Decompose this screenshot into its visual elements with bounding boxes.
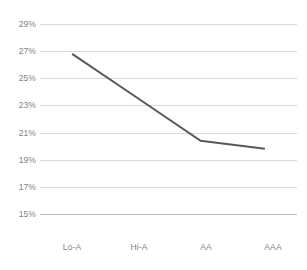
gridline-29	[40, 24, 297, 25]
plot-area	[40, 24, 297, 236]
gridline-23	[40, 105, 297, 106]
y-tick-label-17: 17%	[4, 183, 36, 192]
y-tick-label-29: 29%	[4, 20, 36, 29]
y-tick-label-23: 23%	[4, 101, 36, 110]
gridline-17	[40, 187, 297, 188]
y-tick-label-21: 21%	[4, 129, 36, 138]
gridline-21	[40, 133, 297, 134]
y-tick-label-19: 19%	[4, 156, 36, 165]
gridline-27	[40, 51, 297, 52]
x-tick-label-aa: AA	[200, 243, 212, 252]
y-tick-label-25: 25%	[4, 74, 36, 83]
y-tick-label-27: 27%	[4, 47, 36, 56]
x-tick-label-hi-a: Hi-A	[131, 243, 148, 252]
y-tick-label-15: 15%	[4, 210, 36, 219]
x-tick-label-lo-a: Lo-A	[63, 243, 81, 252]
gridline-25	[40, 78, 297, 79]
line-chart: 29% 27% 25% 23% 21% 19% 17% 15% Lo-A Hi-…	[0, 0, 307, 270]
x-tick-label-aaa: AAA	[264, 243, 281, 252]
x-axis-line	[40, 214, 297, 215]
gridline-19	[40, 160, 297, 161]
